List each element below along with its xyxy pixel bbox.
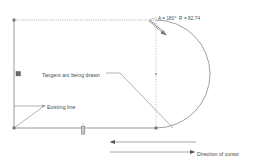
caption-arrow-right [110, 150, 196, 154]
cad-diagram-canvas: Tangent arc being drawn Existing line A … [0, 0, 273, 167]
existing-line-diagonal [14, 106, 44, 128]
caption-arrow-left [110, 140, 197, 144]
existing-line-label: Existing line [47, 104, 75, 110]
cursor-direction-caption: Direction of cursor movement after speci… [197, 136, 253, 167]
tooltip-leader-line [150, 18, 157, 20]
bottom-grip-marker [81, 127, 84, 135]
corner-node-top-left [13, 19, 16, 22]
cursor-drag-arrow [150, 21, 168, 36]
midpoint-tick-marker [155, 73, 157, 75]
corner-node-bottom-right [155, 127, 158, 130]
corner-node-bottom-left [13, 127, 16, 130]
left-snap-square-marker [16, 72, 20, 76]
caption-line-1: Direction of cursor [197, 151, 253, 159]
dynamic-input-tooltip: A = 180° R = 82.74 [158, 16, 200, 22]
tangent-arc [156, 20, 210, 128]
tangent-arc-label: Tangent arc being drawn [42, 72, 100, 78]
tangent-leader-diagonal [120, 73, 173, 128]
